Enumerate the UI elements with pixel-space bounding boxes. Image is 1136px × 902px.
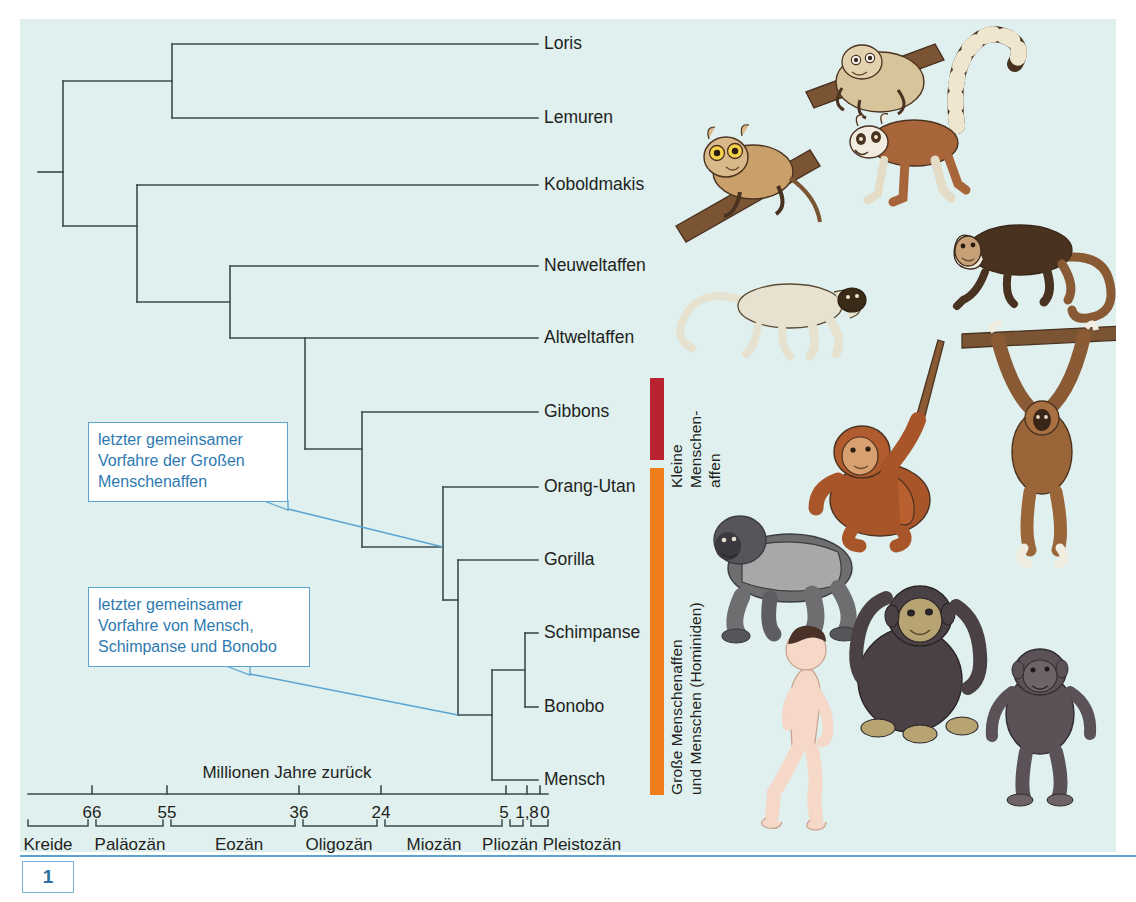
gibbon-illustration [962, 323, 1122, 564]
tip-label-loris: Loris [544, 35, 582, 53]
footer-rule [20, 855, 1136, 857]
gorilla-illustration [714, 516, 858, 643]
group-label-grosse-menschenaffen: Große Menschenaffen und Menschen (Homini… [668, 583, 706, 795]
tip-label-schimpanse: Schimpanse [544, 624, 640, 642]
time-axis [28, 786, 548, 794]
axis-tick-66: 66 [83, 803, 102, 823]
axis-title: Millionen Jahre zurück [202, 763, 371, 783]
epoch-label-pleistozaen: Pleistozän [543, 835, 621, 855]
figure-number-badge: 1 [22, 861, 74, 893]
phylogenetic-tree [38, 44, 538, 780]
figure-page: Loris Lemuren Koboldmakis Neuweltaffen A… [0, 0, 1136, 902]
capuchin-neuweltaffe-illustration [954, 225, 1111, 318]
tip-label-lemuren: Lemuren [544, 109, 613, 127]
epoch-label-eozaen: Eozän [215, 835, 263, 855]
axis-tick-36: 36 [290, 803, 309, 823]
epoch-label-kreide: Kreide [23, 835, 72, 855]
tarsier-koboldmaki-illustration [676, 125, 820, 242]
axis-tick-5: 5 [499, 803, 508, 823]
epoch-label-pliozaen: Pliozän [482, 835, 538, 855]
epoch-label-palaeozaen: Paläozän [95, 835, 166, 855]
group-bar-grosse-menschenaffen [650, 468, 664, 795]
group-bar-kleine-menschenaffen [650, 378, 664, 460]
axis-tick-0: 0 [540, 803, 549, 823]
human-illustration [761, 626, 828, 830]
tip-label-gorilla: Gorilla [544, 551, 595, 569]
chimpanzee-illustration [856, 586, 980, 743]
tip-label-bonobo: Bonobo [544, 698, 604, 716]
loris-on-branch-illustration [806, 44, 944, 118]
langur-altweltaffe-illustration [680, 284, 866, 356]
bonobo-illustration [992, 649, 1090, 806]
callout-human-chimp-bonobo: letzter gemeinsamer Vorfahre von Mensch,… [88, 587, 310, 667]
orangutan-illustration [816, 340, 944, 546]
axis-tick-55: 55 [158, 803, 177, 823]
tip-label-mensch: Mensch [544, 771, 605, 789]
tip-label-orang-utan: Orang-Utan [544, 478, 635, 496]
epoch-label-miozaen: Miozän [407, 835, 462, 855]
epoch-label-oligozaen: Oligozän [305, 835, 372, 855]
tip-label-neuweltaffen: Neuweltaffen [544, 257, 646, 275]
callout-great-apes: letzter gemeinsamer Vorfahre der Großen … [88, 422, 288, 502]
axis-tick-24: 24 [372, 803, 391, 823]
tip-label-koboldmakis: Koboldmakis [544, 176, 644, 194]
epoch-brackets [28, 820, 548, 826]
axis-tick-1-8: 1,8 [515, 803, 539, 823]
tip-label-altweltaffen: Altweltaffen [544, 329, 634, 347]
tip-label-gibbons: Gibbons [544, 403, 609, 421]
group-label-kleine-menschenaffen: Kleine Menschen- affen [668, 378, 725, 488]
